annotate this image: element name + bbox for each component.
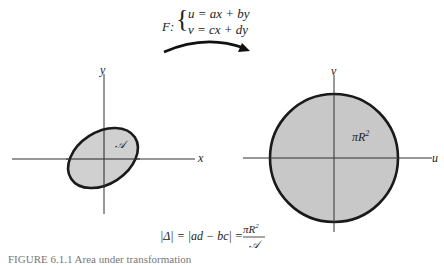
formula-numerator: πR2 <box>243 222 259 235</box>
formula-denominator: 𝒜 <box>249 238 259 251</box>
region-circle-label: πR2 <box>352 129 369 145</box>
u-axis-label: u <box>432 151 438 166</box>
x-axis-label: x <box>198 151 203 166</box>
y-axis-label: y <box>100 63 105 78</box>
equation-v: v = cx + dy <box>188 22 248 38</box>
numerator-text: πR <box>243 223 255 235</box>
figure-caption: FIGURE 6.1.1 Area under transformation <box>8 253 191 265</box>
region-a-ellipse <box>57 115 149 200</box>
equation-u: u = ax + by <box>188 6 250 22</box>
v-axis-label: v <box>331 64 336 79</box>
numerator-exp: 2 <box>255 222 259 230</box>
determinant-formula: |Δ| = |ad − bc| = <box>160 229 243 244</box>
mapping-name: F: <box>162 19 174 35</box>
brace: { <box>176 6 188 32</box>
formula-lhs: |Δ| = |ad − bc| = <box>160 229 243 243</box>
circle-area-exp: 2 <box>365 129 369 138</box>
region-a-label: 𝒜 <box>115 138 125 151</box>
mapping-arrow <box>164 42 244 52</box>
circle-area-text: πR <box>352 130 365 144</box>
